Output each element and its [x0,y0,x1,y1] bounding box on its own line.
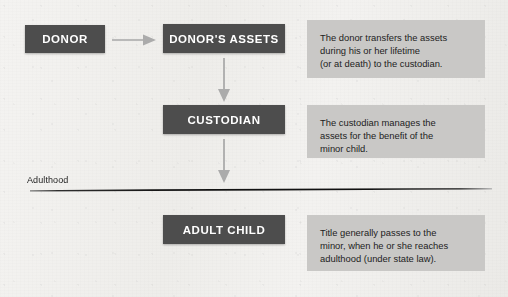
node-donor-label: DONOR [42,33,88,45]
description-panel-transfer: The donor transfers the assets during hi… [307,20,485,78]
node-adult-child-label: ADULT CHILD [183,224,266,236]
node-custodian[interactable]: CUSTODIAN [163,105,285,134]
node-donors-assets-label: DONOR'S ASSETS [169,33,279,45]
arrow-down-icon [210,56,238,104]
node-donors-assets[interactable]: DONOR'S ASSETS [163,24,285,53]
node-donor[interactable]: DONOR [25,25,105,53]
description-title-passes-text: Title generally passes to the minor, whe… [320,226,473,266]
adulthood-divider-label: Adulthood [27,175,68,185]
node-custodian-label: CUSTODIAN [187,114,260,126]
node-adult-child[interactable]: ADULT CHILD [163,215,285,244]
description-panel-title-passes: Title generally passes to the minor, whe… [307,215,485,271]
adulthood-divider-line [30,186,492,193]
arrow-down-icon [210,137,238,185]
description-manage-text: The custodian manages the assets for the… [320,116,473,156]
diagram-canvas: DONOR DONOR'S ASSETS CUSTODIAN ADULT CHI… [0,0,508,297]
description-panel-manage: The custodian manages the assets for the… [307,105,485,158]
description-transfer-text: The donor transfers the assets during hi… [320,31,473,71]
arrow-right-icon [110,31,158,49]
